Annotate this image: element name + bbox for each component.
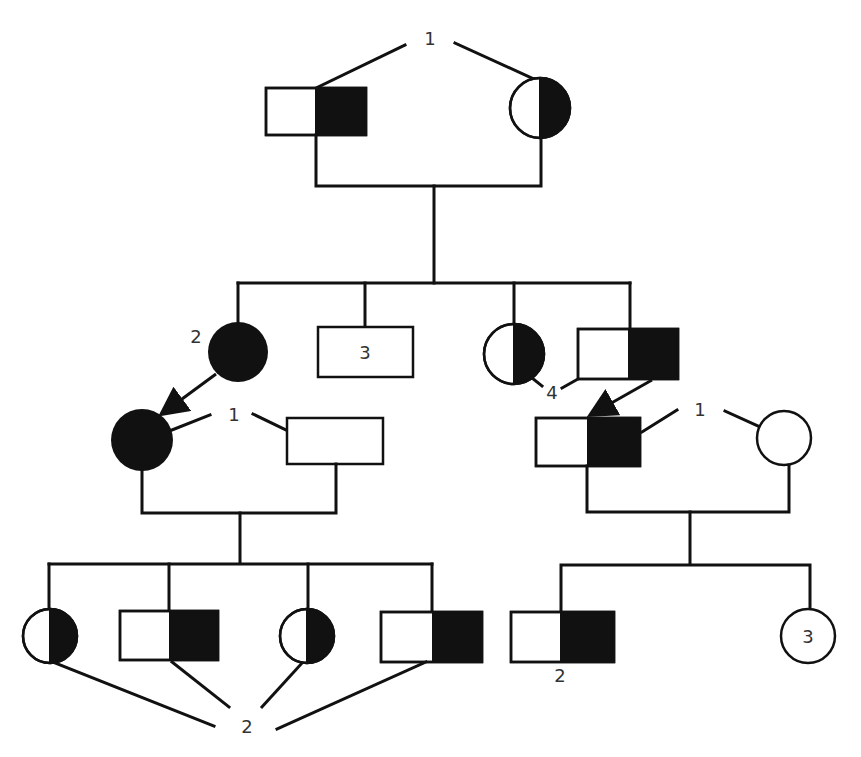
female-unaffected-symbol-IV-6[interactable]: 3 xyxy=(781,609,835,663)
generation-2: 2 3 4 xyxy=(190,283,678,403)
gen1-couple-marker: 1 xyxy=(424,28,435,49)
gen4-group-line-4 xyxy=(277,662,426,729)
gen4-daughter-count: 3 xyxy=(802,626,813,647)
generation-3: 1 1 xyxy=(111,374,811,563)
female-carrier-symbol-IV-1[interactable] xyxy=(23,609,77,663)
female-carrier-symbol-IV-3[interactable] xyxy=(280,609,334,663)
female-affected-symbol-II-1[interactable] xyxy=(208,322,268,382)
male-carrier-symbol-II-4[interactable] xyxy=(578,329,678,379)
male-carrier-symbol-IV-5[interactable] xyxy=(511,612,614,662)
gen4-group-line-3 xyxy=(262,663,302,707)
gen3-left-marriage-line xyxy=(142,464,336,513)
gen3-right-marker-line-left xyxy=(642,410,677,432)
gen3-right-couple-marker: 1 xyxy=(694,399,705,420)
female-affected-symbol-III-1[interactable] xyxy=(111,409,173,471)
gen2-daughter-count: 2 xyxy=(190,326,201,347)
gen3-right-marriage-line xyxy=(587,465,789,512)
pedigree-diagram: 1 2 3 xyxy=(0,0,861,757)
male-carrier-symbol-IV-4[interactable] xyxy=(381,612,482,662)
generation-4: 2 2 3 xyxy=(23,564,835,737)
male-carrier-symbol-IV-2[interactable] xyxy=(120,611,218,660)
gen3-left-marker-line-right xyxy=(253,414,286,430)
female-carrier-symbol-I-2[interactable] xyxy=(510,78,570,138)
female-unaffected-symbol-III-4[interactable] xyxy=(757,411,811,465)
male-unaffected-symbol-III-2[interactable] xyxy=(287,418,383,464)
gen4-son-count: 2 xyxy=(554,665,565,686)
male-carrier-symbol-I-1[interactable] xyxy=(266,88,366,135)
male-unaffected-symbol-II-2[interactable]: 3 xyxy=(318,327,413,377)
gen3-left-couple-marker: 1 xyxy=(228,404,239,425)
descent-arrow-right xyxy=(592,380,652,414)
gen2-son-count: 3 xyxy=(359,342,370,363)
gen3-right-marker-line-right xyxy=(725,411,758,426)
gen4-group-line-1 xyxy=(55,663,214,726)
gen2-marker4-line-left xyxy=(532,378,542,386)
gen4-group-count: 2 xyxy=(241,716,252,737)
gen2-marker-4: 4 xyxy=(546,382,557,403)
gen4-right-sibship-line xyxy=(561,565,810,612)
generation-1: 1 xyxy=(266,28,570,283)
female-carrier-symbol-II-3[interactable] xyxy=(484,324,544,384)
descent-arrow-left xyxy=(163,374,216,413)
gen2-marker4-line-right xyxy=(562,379,578,388)
gen3-left-marker-line-left xyxy=(172,415,210,430)
gen4-group-line-2 xyxy=(172,662,229,707)
gen1-marriage-line xyxy=(316,135,541,186)
gen1-marker-line-left xyxy=(316,45,405,88)
gen1-marker-line-right xyxy=(455,43,536,80)
male-carrier-symbol-III-3[interactable] xyxy=(536,418,640,466)
